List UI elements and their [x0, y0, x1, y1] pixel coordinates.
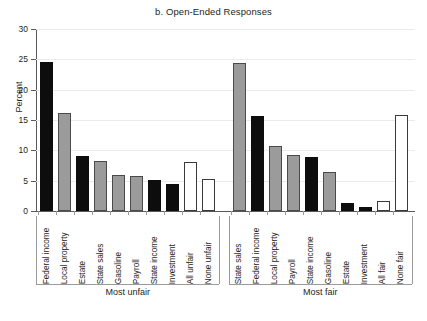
y-axis-tick: [31, 120, 36, 121]
x-axis-tick: [38, 211, 39, 215]
x-axis-tick: [74, 211, 75, 215]
gridline: [36, 29, 415, 30]
group-bracket-tick: [36, 216, 37, 284]
plot-area: [36, 29, 415, 211]
group-bracket-tick: [229, 216, 230, 284]
gridline: [36, 150, 415, 151]
x-axis-tick: [321, 211, 322, 215]
group-bracket-tick: [219, 216, 220, 284]
x-axis-category: State income: [303, 216, 319, 284]
x-axis-category: Local property: [57, 216, 73, 284]
x-axis-label: Investment: [169, 244, 177, 284]
x-axis-tick: [231, 211, 232, 215]
x-axis-category: Federal income: [249, 216, 265, 284]
x-axis-tick: [267, 211, 268, 215]
gridline: [36, 120, 415, 121]
x-axis-category: State sales: [231, 216, 247, 284]
x-axis-category: None fair: [393, 216, 409, 284]
x-axis-tick: [357, 211, 358, 215]
x-axis-tick: [375, 211, 376, 215]
x-axis-label: Estate: [343, 261, 351, 284]
bar: [76, 156, 89, 211]
x-axis-tick: [56, 211, 57, 215]
x-axis-category: Federal income: [39, 216, 55, 284]
x-axis-category: None unfair: [201, 216, 217, 284]
bar: [287, 155, 300, 211]
bar: [202, 179, 215, 211]
group-label: Most fair: [229, 287, 412, 297]
x-axis-tick: [164, 211, 165, 215]
y-axis-tick: [31, 59, 36, 60]
bar: [184, 162, 197, 211]
x-axis-category: All fair: [375, 216, 391, 284]
x-axis-category: Payroll: [285, 216, 301, 284]
bar: [166, 184, 179, 211]
x-axis-tick: [182, 211, 183, 215]
y-axis-label: 5: [2, 176, 28, 186]
y-axis-label: 30: [2, 24, 28, 34]
x-axis-category: Gasoline: [111, 216, 127, 284]
gridline: [36, 90, 415, 91]
bar: [58, 113, 71, 211]
y-axis-tick: [31, 181, 36, 182]
x-axis-tick: [128, 211, 129, 215]
x-axis-label: All fair: [379, 261, 387, 284]
gridline: [36, 59, 415, 60]
bar: [148, 180, 161, 211]
bar: [359, 207, 372, 211]
x-axis-label: Gasoline: [325, 252, 333, 284]
x-axis-label: Local property: [271, 232, 279, 284]
x-axis-label: Local property: [60, 232, 68, 284]
bar: [40, 62, 53, 211]
x-axis-tick: [110, 211, 111, 215]
group-bracket: [36, 284, 219, 285]
bar: [269, 146, 282, 211]
x-axis-label: None unfair: [205, 242, 213, 284]
x-axis-tick: [339, 211, 340, 215]
x-axis-label: Estate: [78, 261, 86, 284]
x-axis-label: Federal income: [42, 228, 50, 284]
x-axis-category: State income: [147, 216, 163, 284]
bar: [305, 157, 318, 211]
x-axis-tick: [393, 211, 394, 215]
bar: [377, 201, 390, 211]
x-axis-category: Investment: [165, 216, 181, 284]
group-bracket-tick: [412, 216, 413, 284]
x-axis-tick: [146, 211, 147, 215]
x-axis-tick: [285, 211, 286, 215]
bar: [94, 161, 107, 211]
bar: [233, 63, 246, 211]
figure: b. Open-Ended Responses 051015202530 Per…: [0, 0, 427, 321]
x-axis-category: Gasoline: [321, 216, 337, 284]
x-axis-label: All unfair: [187, 252, 195, 284]
x-axis-label: None fair: [397, 251, 405, 284]
y-axis-label: 10: [2, 145, 28, 155]
x-axis-category: Investment: [357, 216, 373, 284]
x-axis-label: Gasoline: [115, 252, 123, 284]
bar: [341, 203, 354, 211]
x-axis-label: State sales: [97, 243, 105, 284]
gridline: [36, 181, 415, 182]
x-axis-category: Estate: [339, 216, 355, 284]
y-axis-tick: [31, 150, 36, 151]
x-axis-label: Payroll: [289, 259, 297, 284]
y-axis-title: Percent: [14, 52, 24, 142]
y-axis-label: 0: [2, 206, 28, 216]
x-axis-label: State income: [151, 236, 159, 284]
x-axis-category: Payroll: [129, 216, 145, 284]
x-axis-label: State sales: [235, 243, 243, 284]
x-axis-category: Estate: [75, 216, 91, 284]
bar: [395, 115, 408, 211]
x-axis-category: State sales: [93, 216, 109, 284]
x-axis-label: State income: [307, 236, 315, 284]
x-axis-label: Investment: [361, 244, 369, 284]
x-axis-label: Payroll: [133, 259, 141, 284]
bar: [251, 116, 264, 211]
y-axis-tick: [31, 90, 36, 91]
x-axis-category: Local property: [267, 216, 283, 284]
x-axis-tick: [303, 211, 304, 215]
x-axis-tick: [92, 211, 93, 215]
x-axis-category: All unfair: [183, 216, 199, 284]
bar: [323, 172, 336, 211]
group-bracket: [229, 284, 412, 285]
